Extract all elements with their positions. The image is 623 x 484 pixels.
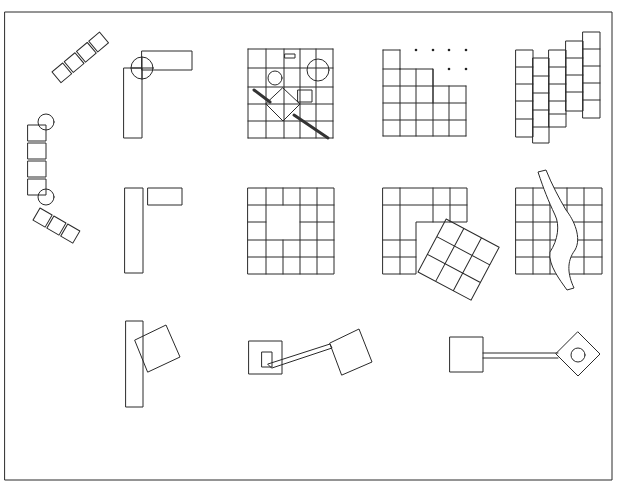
figure-grid-dissolving [383, 49, 467, 136]
figure-linked-squares [249, 329, 372, 375]
figure-l-shape-separated [125, 188, 182, 273]
figure-square-diamond-link [450, 332, 600, 376]
figure-bar-rotated-square [126, 321, 180, 407]
figure-grid-river [516, 170, 602, 290]
figure-grid-rotated-insert [383, 188, 499, 300]
figure-grid-staggered [516, 32, 600, 143]
figure-l-shape-circle [124, 51, 192, 138]
diagram-canvas [0, 0, 623, 484]
sheet-frame [5, 12, 612, 480]
figure-curved-chain [28, 32, 108, 243]
figure-grid-void [248, 188, 334, 274]
figure-grid-with-objects [248, 49, 333, 138]
